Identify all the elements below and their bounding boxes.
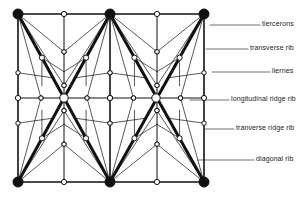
lierne-boss xyxy=(177,136,182,141)
lierne-boss xyxy=(39,96,43,100)
tierceron xyxy=(110,14,157,52)
lierne-boss xyxy=(83,136,88,141)
lierne-boss xyxy=(83,55,88,60)
springer xyxy=(13,9,23,19)
lierne-boss xyxy=(16,71,20,75)
lierne xyxy=(167,73,204,78)
central-boss xyxy=(152,94,160,102)
lierne-boss xyxy=(62,83,66,87)
lierne-boss xyxy=(132,136,137,141)
lierne-boss xyxy=(15,95,20,100)
lierne-boss xyxy=(62,50,66,54)
tierceron xyxy=(18,144,64,182)
lierne-boss xyxy=(155,142,159,146)
tierceron xyxy=(157,111,204,182)
lierne-boss xyxy=(155,108,159,112)
lierne-boss xyxy=(61,11,66,16)
lierne-boss xyxy=(62,142,66,146)
tierceron xyxy=(18,14,41,98)
lierne xyxy=(74,73,110,78)
lierne-boss xyxy=(202,71,206,75)
lierne xyxy=(110,73,147,78)
tierceron xyxy=(110,111,157,182)
tierceron xyxy=(64,144,110,182)
tierceron xyxy=(157,14,204,52)
lierne xyxy=(18,73,54,78)
label-longitudinal-ridge-rib: longitudinal ridge rib xyxy=(231,95,296,103)
lierne-boss xyxy=(61,179,66,184)
tierceron xyxy=(87,14,110,98)
springer xyxy=(105,177,115,187)
lierne-boss xyxy=(16,121,20,125)
tierceron xyxy=(157,144,204,182)
tierceron xyxy=(181,14,205,98)
lierne xyxy=(18,118,54,123)
lierne-boss xyxy=(107,95,112,100)
springer xyxy=(13,177,23,187)
springer xyxy=(199,177,209,187)
lierne-boss xyxy=(39,136,44,141)
tierceron xyxy=(181,98,205,182)
lierne-boss xyxy=(178,96,182,100)
lierne-boss xyxy=(85,96,89,100)
tierceron xyxy=(64,14,110,52)
label-tranverse-ridge-rib: tranverse ridge rib xyxy=(236,124,294,132)
tierceron xyxy=(110,14,157,85)
label-tiercerons: tiercerons xyxy=(262,20,294,28)
label-liernes: liernes xyxy=(272,67,293,75)
tierceron xyxy=(110,14,134,98)
central-boss xyxy=(60,94,68,102)
lierne-boss xyxy=(154,179,159,184)
lierne-boss xyxy=(155,50,159,54)
lierne-boss xyxy=(39,55,44,60)
springer xyxy=(199,9,209,19)
lierne xyxy=(167,118,204,123)
lierne-boss xyxy=(202,121,206,125)
tierceron xyxy=(110,98,134,182)
tierceron xyxy=(110,144,157,182)
vault-diagram: tiercerons transverse rib liernes longit… xyxy=(0,0,303,197)
lierne-boss xyxy=(154,11,159,16)
lierne-boss xyxy=(177,55,182,60)
label-diagonal-rib: diagonal rib xyxy=(256,155,293,163)
tierceron xyxy=(18,14,64,85)
springer xyxy=(105,9,115,19)
tierceron xyxy=(157,14,204,85)
tierceron xyxy=(18,98,41,182)
tierceron xyxy=(18,14,64,52)
lierne-boss xyxy=(132,55,137,60)
lierne-boss xyxy=(155,83,159,87)
tierceron xyxy=(18,111,64,182)
tierceron xyxy=(64,111,110,182)
label-transverse-rib: transverse rib xyxy=(250,44,294,52)
tierceron xyxy=(87,98,110,182)
lierne-boss xyxy=(131,96,135,100)
lierne-boss xyxy=(108,121,112,125)
lierne xyxy=(74,118,110,123)
lierne-boss xyxy=(108,71,112,75)
lierne xyxy=(110,118,147,123)
lierne-boss xyxy=(201,95,206,100)
tierceron xyxy=(64,14,110,85)
lierne-boss xyxy=(62,108,66,112)
